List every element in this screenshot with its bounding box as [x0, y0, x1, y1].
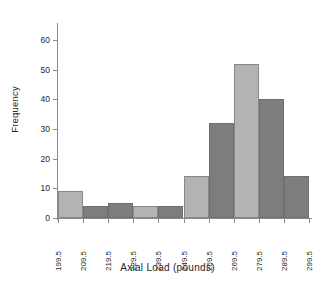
- x-axis-tick-label-holder: 249.5: [180, 225, 190, 259]
- y-axis-tick-label: 60: [28, 35, 50, 45]
- y-axis-tick-label: 40: [28, 94, 50, 104]
- x-axis-tick-label-holder: 229.5: [129, 225, 139, 259]
- histogram-bar: [184, 176, 209, 218]
- x-axis-tick-label-holder: 239.5: [154, 225, 164, 259]
- x-axis-tick-label-holder: 219.5: [104, 225, 114, 259]
- x-axis-tick: [158, 219, 159, 223]
- x-axis-tick: [58, 219, 59, 223]
- histogram-bar: [58, 191, 83, 218]
- histogram-bar: [234, 64, 259, 218]
- x-axis-title: Axial Load (pounds): [0, 262, 335, 273]
- histogram-bar: [284, 176, 309, 218]
- y-axis-tick-label-holder: 30: [26, 129, 50, 130]
- y-axis-tick-label-holder: 0: [26, 218, 50, 219]
- x-axis-tick-label-holder: 199.5: [54, 225, 64, 259]
- y-axis-tick-label: 20: [28, 154, 50, 164]
- x-axis-line: [57, 218, 312, 219]
- x-axis-tick: [234, 219, 235, 223]
- x-axis-tick-label-holder: 279.5: [255, 225, 265, 259]
- y-axis-tick-label: 10: [28, 183, 50, 193]
- histogram-bar: [133, 206, 158, 218]
- y-axis-tick-label: 0: [28, 213, 50, 223]
- y-axis-tick-label: 30: [28, 124, 50, 134]
- y-axis-tick-label-holder: 40: [26, 99, 50, 100]
- histogram-bar: [158, 206, 183, 218]
- x-axis-tick: [133, 219, 134, 223]
- y-axis-tick-label: 50: [28, 65, 50, 75]
- x-axis-tick: [309, 219, 310, 223]
- y-axis-tick-label-holder: 50: [26, 70, 50, 71]
- x-axis-tick: [108, 219, 109, 223]
- y-axis-tick-label-holder: 10: [26, 188, 50, 189]
- y-axis-tick-label-holder: 20: [26, 159, 50, 160]
- histogram-chart: Frequency 0102030405060 199.5209.5219.52…: [0, 0, 335, 283]
- x-axis-tick: [259, 219, 260, 223]
- y-axis-title-label: Frequency: [9, 86, 20, 133]
- x-axis-tick-label-holder: 209.5: [79, 225, 89, 259]
- plot-area: [58, 25, 309, 218]
- x-axis-tick: [184, 219, 185, 223]
- x-axis-tick-label-holder: 289.5: [280, 225, 290, 259]
- y-axis-tick-label-holder: 60: [26, 40, 50, 41]
- histogram-bar: [209, 123, 234, 218]
- x-axis-tick-label-holder: 269.5: [230, 225, 240, 259]
- histogram-bar: [259, 99, 284, 218]
- x-axis-tick-label-holder: 259.5: [205, 225, 215, 259]
- x-axis-tick-label-holder: 299.5: [305, 225, 315, 259]
- y-axis-title: Frequency: [6, 0, 22, 218]
- x-axis-tick: [83, 219, 84, 223]
- x-axis-tick: [284, 219, 285, 223]
- histogram-bar: [83, 206, 108, 218]
- histogram-bar: [108, 203, 133, 218]
- x-axis-tick: [209, 219, 210, 223]
